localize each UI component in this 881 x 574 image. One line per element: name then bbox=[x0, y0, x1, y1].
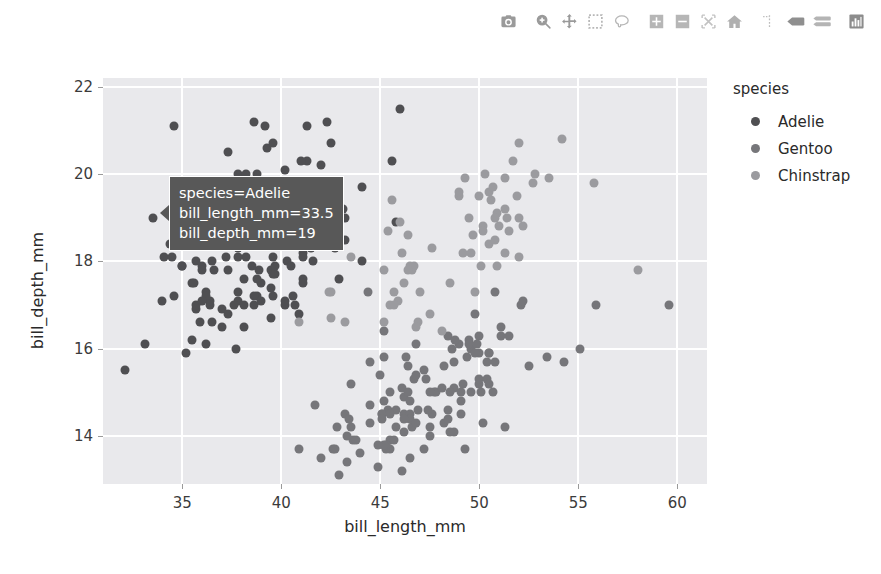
data-point[interactable] bbox=[386, 388, 395, 397]
data-point[interactable] bbox=[342, 431, 351, 440]
data-point[interactable] bbox=[287, 261, 296, 270]
data-point[interactable] bbox=[295, 445, 304, 454]
data-point[interactable] bbox=[346, 423, 355, 432]
data-point[interactable] bbox=[316, 161, 325, 170]
data-point[interactable] bbox=[447, 344, 456, 353]
data-point[interactable] bbox=[491, 287, 500, 296]
data-point[interactable] bbox=[380, 327, 389, 336]
data-point[interactable] bbox=[411, 322, 420, 331]
data-point[interactable] bbox=[403, 362, 412, 371]
data-point[interactable] bbox=[590, 178, 599, 187]
data-point[interactable] bbox=[471, 309, 480, 318]
data-point[interactable] bbox=[366, 401, 375, 410]
legend[interactable]: species Adelie Gentoo Chinstrap bbox=[733, 80, 873, 189]
data-point[interactable] bbox=[239, 274, 248, 283]
data-point[interactable] bbox=[489, 183, 498, 192]
data-point[interactable] bbox=[465, 213, 474, 222]
data-point[interactable] bbox=[403, 266, 412, 275]
data-point[interactable] bbox=[271, 270, 280, 279]
data-point[interactable] bbox=[411, 418, 420, 427]
data-point[interactable] bbox=[295, 309, 304, 318]
data-point[interactable] bbox=[326, 287, 335, 296]
data-point[interactable] bbox=[390, 436, 399, 445]
data-point[interactable] bbox=[479, 418, 488, 427]
data-point[interactable] bbox=[518, 296, 527, 305]
data-point[interactable] bbox=[400, 279, 409, 288]
data-point[interactable] bbox=[413, 405, 422, 414]
data-point[interactable] bbox=[467, 248, 476, 257]
legend-item-chinstrap[interactable]: Chinstrap bbox=[733, 162, 873, 189]
data-point[interactable] bbox=[346, 252, 355, 261]
data-point[interactable] bbox=[405, 453, 414, 462]
data-point[interactable] bbox=[501, 204, 510, 213]
data-point[interactable] bbox=[322, 117, 331, 126]
data-point[interactable] bbox=[504, 226, 513, 235]
data-point[interactable] bbox=[271, 261, 280, 270]
data-point[interactable] bbox=[495, 222, 504, 231]
data-point[interactable] bbox=[427, 244, 436, 253]
data-point[interactable] bbox=[467, 388, 476, 397]
data-point[interactable] bbox=[267, 314, 276, 323]
data-point[interactable] bbox=[497, 322, 506, 331]
data-point[interactable] bbox=[457, 388, 466, 397]
data-point[interactable] bbox=[401, 353, 410, 362]
data-point[interactable] bbox=[188, 335, 197, 344]
data-point[interactable] bbox=[358, 183, 367, 192]
data-point[interactable] bbox=[485, 349, 494, 358]
data-point[interactable] bbox=[485, 379, 494, 388]
data-point[interactable] bbox=[425, 423, 434, 432]
data-point[interactable] bbox=[308, 257, 317, 266]
data-point[interactable] bbox=[302, 122, 311, 131]
data-point[interactable] bbox=[425, 388, 434, 397]
legend-item-adelie[interactable]: Adelie bbox=[733, 108, 873, 135]
data-point[interactable] bbox=[326, 139, 335, 148]
data-point[interactable] bbox=[501, 174, 510, 183]
data-point[interactable] bbox=[388, 196, 397, 205]
data-point[interactable] bbox=[445, 388, 454, 397]
data-point[interactable] bbox=[217, 322, 226, 331]
data-point[interactable] bbox=[201, 340, 210, 349]
data-point[interactable] bbox=[344, 414, 353, 423]
data-point[interactable] bbox=[423, 405, 432, 414]
data-point[interactable] bbox=[502, 213, 511, 222]
data-point[interactable] bbox=[239, 301, 248, 310]
data-point[interactable] bbox=[346, 379, 355, 388]
data-point[interactable] bbox=[170, 122, 179, 131]
data-point[interactable] bbox=[437, 327, 446, 336]
data-point[interactable] bbox=[514, 139, 523, 148]
data-point[interactable] bbox=[518, 222, 527, 231]
data-point[interactable] bbox=[398, 248, 407, 257]
data-point[interactable] bbox=[419, 366, 428, 375]
data-point[interactable] bbox=[281, 165, 290, 174]
data-point[interactable] bbox=[558, 135, 567, 144]
data-point[interactable] bbox=[390, 301, 399, 310]
data-point[interactable] bbox=[223, 266, 232, 275]
data-point[interactable] bbox=[471, 287, 480, 296]
data-point[interactable] bbox=[221, 252, 230, 261]
data-point[interactable] bbox=[223, 148, 232, 157]
data-point[interactable] bbox=[269, 292, 278, 301]
data-point[interactable] bbox=[231, 344, 240, 353]
data-point[interactable] bbox=[457, 397, 466, 406]
data-point[interactable] bbox=[514, 252, 523, 261]
data-point[interactable] bbox=[374, 440, 383, 449]
data-point[interactable] bbox=[380, 318, 389, 327]
data-point[interactable] bbox=[508, 156, 517, 165]
data-point[interactable] bbox=[514, 213, 523, 222]
data-point[interactable] bbox=[310, 401, 319, 410]
data-point[interactable] bbox=[425, 431, 434, 440]
data-point[interactable] bbox=[334, 471, 343, 480]
data-point[interactable] bbox=[425, 309, 434, 318]
data-point[interactable] bbox=[491, 213, 500, 222]
data-point[interactable] bbox=[390, 287, 399, 296]
data-point[interactable] bbox=[356, 449, 365, 458]
data-point[interactable] bbox=[455, 187, 464, 196]
data-point[interactable] bbox=[403, 388, 412, 397]
data-point[interactable] bbox=[316, 453, 325, 462]
data-point[interactable] bbox=[182, 349, 191, 358]
data-point[interactable] bbox=[192, 257, 201, 266]
data-point[interactable] bbox=[576, 344, 585, 353]
data-point[interactable] bbox=[255, 266, 264, 275]
data-point[interactable] bbox=[374, 462, 383, 471]
data-point[interactable] bbox=[504, 331, 513, 340]
